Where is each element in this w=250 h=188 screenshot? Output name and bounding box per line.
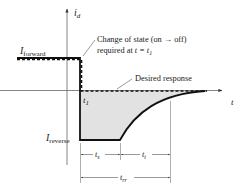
recovery-area (80, 91, 205, 140)
desired-response-label: Desired response (135, 74, 192, 83)
forward-current-label: Iforward (19, 45, 46, 58)
x-axis-label: t (231, 97, 234, 107)
state-change-note-line2: required at t = t1 (97, 46, 152, 56)
state-change-leader (83, 40, 95, 56)
recovery-diagram: id t Iforward Ireverse Change of state (… (0, 0, 250, 188)
state-change-note-line1: Change of state (on → off) (97, 35, 187, 44)
desired-response-leader (117, 79, 132, 89)
reverse-current-label: Ireverse (45, 132, 70, 145)
y-axis-label: id (74, 7, 81, 20)
